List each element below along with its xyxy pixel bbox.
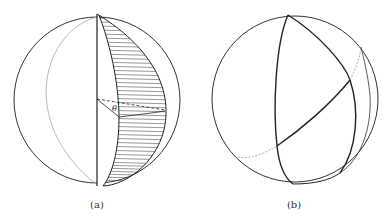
caption-b: (b): [287, 199, 301, 210]
caption-a: (a): [90, 199, 104, 210]
sphere-figure: θ: [0, 0, 392, 220]
theta-label: θ: [112, 104, 117, 113]
hidden-arc-left: [238, 146, 277, 158]
back-meridian: [46, 17, 97, 185]
equator-segment: [119, 111, 165, 117]
panel-b: [212, 15, 378, 184]
triangle-left-edge: [275, 15, 293, 184]
triangle-diagonal-edge: [277, 80, 350, 146]
hidden-arc-right: [350, 47, 361, 80]
sphere-b-outline: [212, 16, 378, 182]
panel-a: θ: [14, 14, 180, 186]
bottom-arc: [293, 173, 340, 184]
lune-hatching: [97, 14, 175, 186]
triangle-right-edge: [288, 15, 356, 173]
